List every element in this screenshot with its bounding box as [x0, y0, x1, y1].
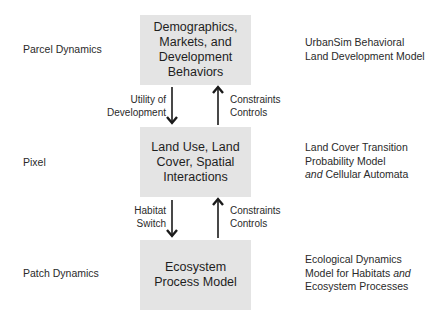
- model-land-cover-line2: Probability Model: [305, 155, 408, 169]
- edge-label-constraints-controls-top: Constraints Controls: [230, 94, 281, 119]
- model-ecological-line3: Ecosystem Processes: [305, 280, 411, 294]
- model-land-cover-line3-rest: Cellular Automata: [323, 168, 409, 180]
- model-ecological-line1: Ecological Dynamics: [305, 253, 411, 267]
- model-ecological-line2: Model for Habitats and: [305, 267, 411, 281]
- model-urbansim: UrbanSim Behavioral Land Development Mod…: [305, 36, 425, 63]
- edge-label-constraints-controls-bottom: Constraints Controls: [230, 205, 281, 230]
- model-land-cover-line1: Land Cover Transition: [305, 141, 408, 155]
- model-land-cover-transition: Land Cover Transition Probability Model …: [305, 141, 408, 182]
- model-urbansim-line1: UrbanSim Behavioral: [305, 36, 425, 50]
- edge-label-utility-of-development: Utility of Development: [107, 94, 166, 119]
- italic-and: and: [393, 267, 411, 279]
- model-ecological-dynamics: Ecological Dynamics Model for Habitats a…: [305, 253, 411, 294]
- italic-and: and: [305, 168, 323, 180]
- model-urbansim-line2: Land Development Model: [305, 50, 425, 64]
- model-land-cover-line3: and Cellular Automata: [305, 168, 408, 182]
- edge-label-habitat-switch: Habitat Switch: [134, 205, 166, 230]
- model-ecological-line2-rest: Model for Habitats: [305, 267, 393, 279]
